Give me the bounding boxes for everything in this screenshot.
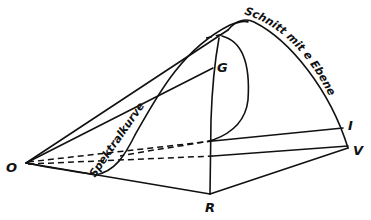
diagram-canvas: O G R V I Spektralkurve Schnitt mit e Eb… xyxy=(0,0,371,220)
plane-intersection-label: Schnitt mit e Ebene xyxy=(243,4,339,98)
spectral-curve xyxy=(26,21,248,175)
hidden-inner-curve xyxy=(120,140,213,156)
point-label-V: V xyxy=(353,143,364,158)
point-label-O: O xyxy=(6,160,17,175)
point-label-R: R xyxy=(205,200,215,215)
point-label-I: I xyxy=(348,118,353,133)
inner-curve-G xyxy=(213,36,248,140)
edge-O-G xyxy=(26,68,213,163)
spectral-curve-label: Spektralkurve xyxy=(87,100,148,180)
point-label-G: G xyxy=(217,60,228,75)
